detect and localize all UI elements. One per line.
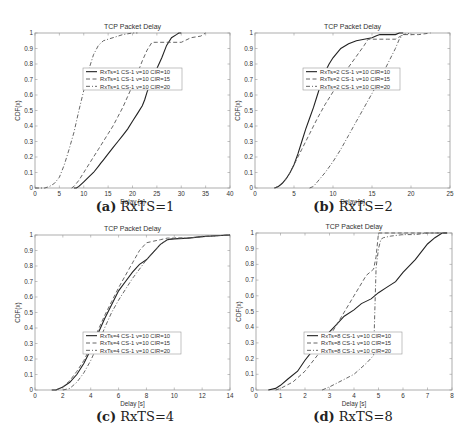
x-tick-label: 10 xyxy=(80,190,88,197)
x-tick-label: 10 xyxy=(329,190,337,197)
x-tick-label: 0 xyxy=(254,392,258,399)
caption-tag: (a) xyxy=(96,199,117,214)
y-tick-label: 0 xyxy=(249,184,253,191)
y-tick-label: 0 xyxy=(29,386,33,393)
x-tick-label: 5 xyxy=(292,190,296,197)
x-tick-label: 14 xyxy=(226,392,234,399)
x-tick-label: 12 xyxy=(199,392,207,399)
x-tick-label: 0 xyxy=(33,190,37,197)
y-tick-label: 0.9 xyxy=(24,247,33,254)
y-tick-label: 1 xyxy=(250,229,254,236)
legend-entry: RxTs=1 CS-1 v=10 CIR=20 xyxy=(100,84,170,90)
x-tick-label: 4 xyxy=(89,392,93,399)
chart-d: 01234567800.10.20.30.40.50.60.70.80.91TC… xyxy=(235,223,454,408)
y-tick-label: 0.5 xyxy=(245,308,254,315)
x-tick-label: 0 xyxy=(253,190,257,197)
caption-text: RxTS=1 xyxy=(121,199,175,214)
y-tick-label: 0.2 xyxy=(244,153,253,160)
y-tick-label: 0.3 xyxy=(24,340,33,347)
y-tick-label: 0.1 xyxy=(24,169,33,176)
legend-entry: RxTs=1 CS-1 v=10 CIR=10 xyxy=(100,69,170,75)
y-tick-label: 0.1 xyxy=(24,371,33,378)
y-tick-label: 0.2 xyxy=(24,153,33,160)
caption-b: (b) RxTS=2 xyxy=(288,199,418,214)
figure-canvas: 051015202530354000.10.20.30.40.50.60.70.… xyxy=(0,0,475,442)
y-tick-label: 1 xyxy=(29,231,33,238)
chart-title: TCP Packet Delay xyxy=(104,225,162,233)
y-axis-label: CDF(x) xyxy=(235,301,243,321)
x-tick-label: 4 xyxy=(352,392,356,399)
legend-entry: RxTs=4 CS-1 v=10 CIR=15 xyxy=(100,340,170,346)
y-tick-label: 0.9 xyxy=(245,245,254,252)
y-tick-label: 0 xyxy=(29,184,33,191)
y-tick-label: 1 xyxy=(29,29,33,36)
legend: RxTs=2 CS-1 v=10 CIR=10RxTs=2 CS-1 v=10 … xyxy=(303,68,400,90)
x-tick-label: 0 xyxy=(33,392,37,399)
legend-entry: RxTs=4 CS-1 v=10 CIR=20 xyxy=(100,348,170,354)
axes-frame xyxy=(35,235,230,390)
y-tick-label: 0.6 xyxy=(245,292,254,299)
y-tick-label: 0.5 xyxy=(244,107,253,114)
y-axis-label: CDF(x) xyxy=(14,302,22,322)
legend-entry: RxTs=4 CS-1 v=10 CIR=10 xyxy=(100,333,170,339)
chart-a: 051015202530354000.10.20.30.40.50.60.70.… xyxy=(14,23,234,206)
x-tick-label: 7 xyxy=(426,392,430,399)
y-tick-label: 0.6 xyxy=(244,91,253,98)
y-tick-label: 0.4 xyxy=(244,122,253,129)
legend-entry: RxTs=2 CS-1 v=10 CIR=10 xyxy=(320,69,390,75)
y-tick-label: 0.4 xyxy=(24,122,33,129)
y-tick-label: 0.7 xyxy=(24,278,33,285)
y-tick-label: 0.8 xyxy=(24,60,33,67)
y-tick-label: 0.9 xyxy=(24,45,33,52)
axes-frame xyxy=(35,33,230,188)
y-tick-label: 0.3 xyxy=(244,138,253,145)
caption-tag: (b) xyxy=(313,199,334,214)
chart-title: TCP Packet Delay xyxy=(104,23,162,31)
x-tick-label: 6 xyxy=(401,392,405,399)
caption-text: RxTS=4 xyxy=(120,409,174,424)
y-tick-label: 0.8 xyxy=(244,60,253,67)
y-tick-label: 0.5 xyxy=(24,107,33,114)
legend-entry: RxTs=8 CS-1 v=10 CIR=15 xyxy=(321,340,391,346)
x-tick-label: 20 xyxy=(129,190,137,197)
y-tick-label: 0.2 xyxy=(24,355,33,362)
y-tick-label: 0.5 xyxy=(24,309,33,316)
x-tick-label: 3 xyxy=(328,392,332,399)
y-tick-label: 0.1 xyxy=(245,370,254,377)
y-tick-label: 0.9 xyxy=(244,45,253,52)
legend-entry: RxTs=1 CS-1 v=10 CIR=15 xyxy=(100,76,170,82)
x-tick-label: 40 xyxy=(226,190,234,197)
legend-entry: RxTs=8 CS-1 v=10 CIR=10 xyxy=(321,333,391,339)
y-tick-label: 0.4 xyxy=(24,324,33,331)
legend-entry: RxTs=2 CS-1 v=10 CIR=20 xyxy=(320,84,390,90)
y-tick-label: 0.4 xyxy=(245,323,254,330)
x-tick-label: 25 xyxy=(446,190,454,197)
x-tick-label: 25 xyxy=(153,190,161,197)
legend-entry: RxTs=2 CS-1 v=10 CIR=15 xyxy=(320,76,390,82)
legend: RxTs=8 CS-1 v=10 CIR=10RxTs=8 CS-1 v=10 … xyxy=(304,332,402,354)
legend: RxTs=4 CS-1 v=10 CIR=10RxTs=4 CS-1 v=10 … xyxy=(83,332,181,354)
y-tick-label: 0.1 xyxy=(244,169,253,176)
caption-text: RxTS=2 xyxy=(339,199,393,214)
y-tick-label: 0.6 xyxy=(24,91,33,98)
y-tick-label: 0.3 xyxy=(24,138,33,145)
caption-a: (a) RxTS=1 xyxy=(70,199,200,214)
legend-entry: RxTs=8 CS-1 v=10 CIR=20 xyxy=(321,348,391,354)
caption-text: RxTS=8 xyxy=(339,409,393,424)
x-tick-label: 15 xyxy=(368,190,376,197)
axes-frame xyxy=(256,233,452,390)
y-tick-label: 0.8 xyxy=(24,262,33,269)
chart-b: 051015202500.10.20.30.40.50.60.70.80.91T… xyxy=(234,23,454,206)
x-tick-label: 2 xyxy=(303,392,307,399)
caption-c: (c) RxTS=4 xyxy=(70,409,200,424)
x-axis-label: Delay [s] xyxy=(120,400,145,408)
chart-title: TCP Packet Delay xyxy=(324,23,382,31)
y-tick-label: 0.7 xyxy=(244,76,253,83)
x-tick-label: 8 xyxy=(450,392,454,399)
caption-tag: (c) xyxy=(96,409,116,424)
x-tick-label: 20 xyxy=(407,190,415,197)
x-tick-label: 5 xyxy=(58,190,62,197)
y-tick-label: 0.2 xyxy=(245,355,254,362)
y-tick-label: 0.6 xyxy=(24,293,33,300)
axes-frame xyxy=(255,33,450,188)
